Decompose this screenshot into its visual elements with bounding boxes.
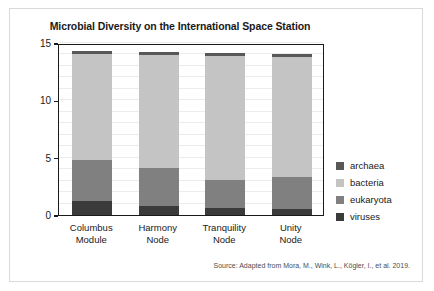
- legend-swatch-icon: [336, 213, 344, 221]
- bar-group[interactable]: [139, 43, 179, 215]
- legend-swatch-icon: [336, 179, 344, 187]
- plot-area: [58, 44, 324, 216]
- bar-segment-viruses[interactable]: [72, 201, 112, 215]
- x-tick-label-line: Unity: [248, 222, 334, 234]
- legend-label: viruses: [350, 211, 380, 222]
- legend-item-viruses[interactable]: viruses: [336, 208, 392, 225]
- bar-segment-viruses[interactable]: [205, 208, 245, 215]
- bar-segment-eukaryota[interactable]: [205, 180, 245, 208]
- y-tick-label: 0: [25, 210, 51, 221]
- bar-group[interactable]: [72, 43, 112, 215]
- bar-segment-eukaryota[interactable]: [272, 177, 312, 210]
- bar-segment-bacteria[interactable]: [205, 56, 245, 180]
- x-tick-label: UnityNode: [248, 222, 334, 245]
- legend-swatch-icon: [336, 196, 344, 204]
- bar-segment-archaea[interactable]: [72, 51, 112, 54]
- legend-swatch-icon: [336, 162, 344, 170]
- bar-segment-eukaryota[interactable]: [139, 168, 179, 206]
- y-tick-label: 10: [25, 95, 51, 106]
- bar-segment-bacteria[interactable]: [272, 57, 312, 176]
- bar-segment-archaea[interactable]: [272, 54, 312, 57]
- legend-label: eukaryota: [350, 194, 392, 205]
- legend-label: archaea: [350, 160, 384, 171]
- figure-container: Microbial Diversity on the International…: [9, 8, 423, 282]
- bar-segment-archaea[interactable]: [205, 53, 245, 56]
- bar-segment-viruses[interactable]: [272, 209, 312, 215]
- legend-item-eukaryota[interactable]: eukaryota: [336, 191, 392, 208]
- bar-segment-viruses[interactable]: [139, 206, 179, 215]
- legend-item-bacteria[interactable]: bacteria: [336, 174, 392, 191]
- bar-segment-bacteria[interactable]: [139, 55, 179, 168]
- legend: archaeabacteriaeukaryotaviruses: [336, 157, 392, 225]
- x-tick-label-line: Node: [248, 234, 334, 246]
- legend-item-archaea[interactable]: archaea: [336, 157, 392, 174]
- legend-label: bacteria: [350, 177, 384, 188]
- bar-segment-archaea[interactable]: [139, 52, 179, 55]
- bar-group[interactable]: [272, 43, 312, 215]
- y-tick-label: 15: [25, 38, 51, 49]
- bar-group[interactable]: [205, 43, 245, 215]
- chart-title: Microbial Diversity on the International…: [10, 20, 350, 32]
- y-tick-label: 5: [25, 153, 51, 164]
- bar-segment-eukaryota[interactable]: [72, 160, 112, 201]
- source-note: Source: Adapted from Mora, M., Wink, L.,…: [160, 262, 410, 269]
- bar-segment-bacteria[interactable]: [72, 54, 112, 160]
